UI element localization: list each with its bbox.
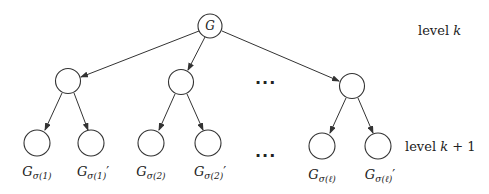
leaf-label-1: Gσ(1)	[22, 164, 51, 181]
leaf-base: G	[77, 164, 87, 179]
tree-diagram: G ··· ··· level k level k + 1 Gσ(1) Gσ(1…	[0, 0, 489, 194]
middle-node-2	[169, 70, 194, 95]
middle-node-3	[340, 74, 365, 99]
leaf-base: G	[22, 164, 32, 179]
leaf-node-1	[24, 130, 50, 156]
leaf-sub: σ(2)	[204, 171, 223, 181]
leaf-prime: ′	[392, 167, 395, 182]
edge-root-to-mid2	[188, 37, 205, 70]
leaf-label-5: Gσ(ℓ)	[308, 167, 335, 184]
leaf-base: G	[136, 164, 146, 179]
edge-mid1-to-leaf2	[74, 93, 88, 130]
leaf-node-6	[365, 133, 391, 159]
leaf-label-3: Gσ(2)	[136, 164, 165, 181]
leaf-sub: σ(ℓ)	[375, 174, 392, 184]
leaf-prime: ′	[223, 164, 226, 179]
edge-mid2-to-leaf4	[187, 94, 203, 130]
leaf-node-3	[138, 130, 164, 156]
ellipsis-leaves: ···	[255, 146, 276, 165]
edge-root-to-mid3	[222, 31, 339, 81]
leaf-node-4	[195, 130, 221, 156]
leaf-node-2	[78, 130, 104, 156]
edge-mid2-to-leaf3	[159, 94, 175, 130]
tree-graphics	[0, 0, 489, 194]
leaf-label-4: Gσ(2)′	[194, 164, 226, 181]
level-var: k	[440, 139, 448, 154]
edge-mid1-to-leaf1	[45, 93, 62, 130]
leaf-prime: ′	[106, 164, 109, 179]
leaf-base: G	[194, 164, 204, 179]
leaf-sub: σ(1)	[87, 171, 106, 181]
middle-node-1	[56, 69, 81, 94]
ellipsis-middle: ···	[255, 73, 276, 92]
level-text: level	[418, 23, 453, 38]
leaf-base: G	[308, 167, 318, 182]
leaf-label-2: Gσ(1)′	[77, 164, 109, 181]
level-k-label: level k	[418, 23, 461, 38]
leaf-node-5	[309, 133, 335, 159]
leaf-sub: σ(1)	[33, 171, 52, 181]
leaf-base: G	[365, 167, 375, 182]
level-k-plus-1-label: level k + 1	[405, 139, 476, 154]
level-var: k	[453, 23, 461, 38]
level-suffix: + 1	[448, 139, 475, 154]
leaf-label-6: Gσ(ℓ)′	[365, 167, 395, 184]
leaf-sub: σ(2)	[147, 171, 166, 181]
level-text: level	[405, 139, 440, 154]
root-label: G	[205, 19, 215, 33]
edge-mid3-to-leaf6	[358, 98, 373, 133]
edge-mid3-to-leaf5	[330, 98, 346, 133]
leaf-sub: σ(ℓ)	[319, 174, 336, 184]
